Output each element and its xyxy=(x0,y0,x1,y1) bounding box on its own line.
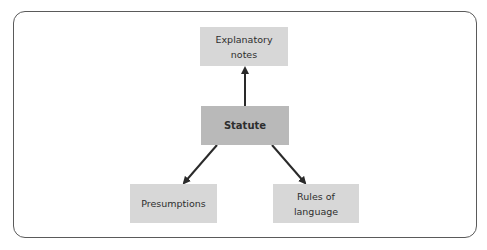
node-presumptions: Presumptions xyxy=(130,184,217,223)
node-rules-of-language: Rules of language xyxy=(273,184,359,223)
node-statute: Statute xyxy=(201,106,289,145)
node-explanatory-notes: Explanatory notes xyxy=(200,27,288,66)
